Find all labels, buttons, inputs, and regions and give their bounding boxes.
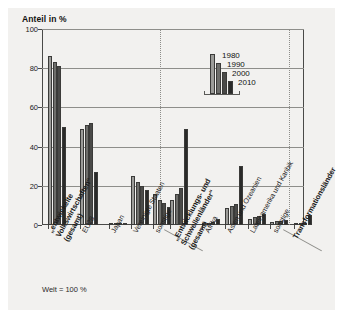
x-label-entwickelte-gesamt: „entwickelte Volkswirtschaften“ (gesamt) [46, 172, 102, 243]
chart-footnote: Welt = 100 % [42, 285, 87, 294]
x-label-sonstige-industrie: sonstige [153, 207, 173, 234]
x-axis-labels: „entwickelte Volkswirtschaften“ (gesamt)… [8, 8, 335, 310]
x-label-japan: Japan [109, 213, 126, 234]
chart-panel: Anteil in % 100 80 60 40 20 0 [8, 8, 335, 310]
x-label-entwicklungs-gesamt: „Entwicklungs- und Schwellenländer“ (ges… [171, 177, 228, 251]
x-label-sonstige-entwicklung: sonstige [271, 207, 291, 234]
x-label-transformationslaender: Transformationsländer [291, 166, 338, 240]
x-label-lateinamerika-karibik: Lateinamerika und Karibik [248, 159, 295, 234]
